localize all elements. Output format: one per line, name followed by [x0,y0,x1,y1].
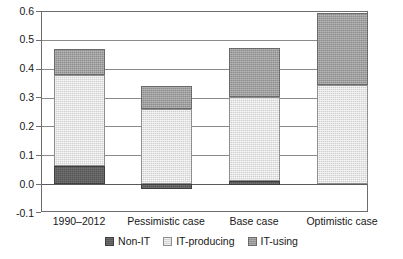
y-axis-tick-label: 0.3 [0,92,34,103]
bar-segment-it-producing [229,97,280,181]
y-axis-tick-mark [36,212,41,213]
bar-segment-it-producing [54,75,105,166]
legend-label-non-it: Non-IT [118,236,150,247]
plot-area [41,11,368,212]
legend-item-it-using: IT-using [248,236,298,247]
bar-segment-non-it [229,181,280,185]
legend-item-it-producing: IT-producing [163,236,234,247]
y-axis-tick-label: 0.4 [0,63,34,74]
y-axis-tick-label: 0.2 [0,121,34,132]
bar-segment-it-producing [141,109,192,184]
legend-label-it-producing: IT-producing [176,236,234,247]
y-axis-tick-label: 0.6 [0,6,34,17]
legend-label-it-using: IT-using [261,236,298,247]
legend-swatch-icon-it-using [248,237,257,246]
bar-segment-it-using [229,48,280,97]
bar-segment-non-it [54,166,105,184]
legend-swatch-icon-it-producing [163,237,172,246]
legend-item-non-it: Non-IT [105,236,150,247]
legend-swatch-icon-non-it [105,237,114,246]
stacked-bar-chart: 0.6 0.5 0.4 0.3 0.2 0.1 0.0 -0.1 [0,0,403,259]
chart-legend: Non-IT IT-producing IT-using [0,236,403,247]
y-axis-tick-label: 0.0 [0,179,34,190]
bar-segment-it-using [54,49,105,75]
bar-segment-it-using [141,86,192,109]
bar-segment-it-using [317,13,368,85]
bar-group-optimistic-case [317,12,368,213]
x-axis-label-optimistic-case: Optimistic case [287,215,397,227]
bar-group-pessimistic-case [141,12,192,213]
bar-segment-non-it [141,184,192,189]
y-axis-tick-label: 0.5 [0,34,34,45]
bar-segment-it-producing [317,85,368,184]
bar-group-base-case [229,12,280,213]
y-axis-tick-label: 0.1 [0,150,34,161]
bar-group-1990-2012 [54,12,105,213]
